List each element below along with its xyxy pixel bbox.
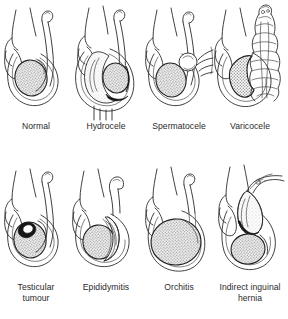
panel-normal: Normal — [0, 2, 72, 132]
panel-indirect-inguinal-hernia: Indirect inguinal hernia — [214, 163, 286, 303]
panel-label-indirect-inguinal-hernia: Indirect inguinal hernia — [214, 282, 286, 303]
panel-label-epididymitis: Epididymitis — [70, 282, 142, 293]
panel-label-testicular-tumour: Testicular tumour — [0, 282, 72, 303]
varicocele-illustration — [214, 2, 286, 120]
spermatocele-illustration — [143, 2, 215, 120]
testicular-tumour-illustration — [0, 163, 72, 281]
epididymitis-illustration — [70, 163, 142, 281]
panel-testicular-tumour: Testicular tumour — [0, 163, 72, 303]
panel-label-normal: Normal — [0, 121, 72, 132]
orchitis-illustration — [143, 163, 215, 281]
panel-hydrocele: Hydrocele — [70, 2, 142, 132]
panel-spermatocele: Spermatocele — [143, 2, 215, 132]
panel-label-spermatocele: Spermatocele — [143, 121, 215, 132]
panel-label-orchitis: Orchitis — [143, 282, 215, 293]
hydrocele-illustration — [70, 2, 142, 120]
panel-label-varicocele: Varicocele — [214, 121, 286, 132]
panel-varicocele: Varicocele — [214, 2, 286, 132]
panel-label-hydrocele: Hydrocele — [70, 121, 142, 132]
panel-grid: Normal — [0, 0, 288, 319]
panel-epididymitis: Epididymitis — [70, 163, 142, 293]
normal-illustration — [0, 2, 72, 120]
indirect-inguinal-hernia-illustration — [214, 163, 286, 281]
scrotal-conditions-figure: Normal — [0, 0, 288, 319]
panel-orchitis: Orchitis — [143, 163, 215, 293]
